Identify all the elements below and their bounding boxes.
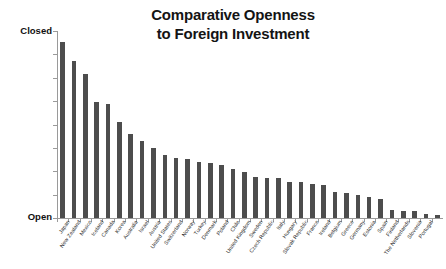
bar [378,199,383,218]
bar [356,195,361,218]
bar [367,197,372,218]
bar [231,169,236,218]
bar [163,155,168,218]
bar [401,211,406,218]
plot-area [57,31,443,218]
bar [185,159,190,218]
bar [117,122,122,218]
y-tick-3 [53,148,58,149]
bar [60,42,65,218]
bar [151,148,156,218]
bar [333,192,338,218]
y-axis-label-open: Open [2,211,52,222]
bar [253,177,258,218]
bar [174,158,179,218]
bar [72,61,77,218]
bar [390,210,395,218]
bar [344,193,349,218]
y-tick-7 [53,54,58,55]
y-axis-label-closed: Closed [2,25,52,36]
bar [219,165,224,218]
y-tick-6 [53,78,58,79]
bar [208,163,213,218]
chart-title-line-1: Comparative Openness [128,6,338,25]
bar [265,178,270,218]
bar [197,162,202,218]
bar [310,184,315,218]
bar [276,178,281,218]
bar [435,215,440,218]
bar [128,134,133,218]
y-tick-5 [53,101,58,102]
bar [424,214,429,218]
bar [412,211,417,218]
bar [106,104,111,218]
bar [83,74,88,218]
bar [299,182,304,218]
y-tick-8 [53,31,58,32]
chart-root: Comparative Openness to Foreign Investme… [0,0,446,269]
bar [321,185,326,218]
x-axis-category-labels: JapanNew ZealandMexicoIcelandCanadaKorea… [57,219,446,269]
y-tick-4 [53,125,58,126]
y-tick-2 [53,171,58,172]
bar [242,172,247,218]
y-tick-1 [53,195,58,196]
bar [140,141,145,218]
bar [94,102,99,218]
bar [287,182,292,218]
